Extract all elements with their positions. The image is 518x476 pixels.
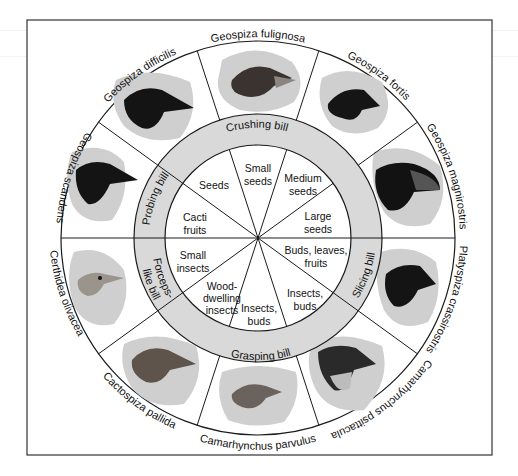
diet-label: Cactifruits [183, 211, 207, 236]
diet-label: Smallseeds [244, 162, 272, 187]
finch-diagram: Geospiza fulignosa Geospiza fortis Geosp… [0, 0, 518, 476]
bird-camarhynchus-parvulus [219, 366, 297, 426]
diet-label: Largeseeds [304, 210, 332, 235]
diet-label: Mediumseeds [284, 172, 322, 197]
diet-label: Wood-dwellinginsects [203, 280, 241, 316]
diet-label: Seeds [199, 179, 229, 191]
diet-label: Smallinsects [177, 249, 210, 274]
bird-geospiza-fulignosa [218, 50, 301, 111]
